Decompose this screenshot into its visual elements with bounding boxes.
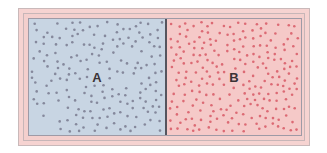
particle-b xyxy=(286,38,289,41)
particle-b xyxy=(185,71,188,74)
particle-a xyxy=(102,108,105,111)
particle-a xyxy=(122,71,125,74)
particle-b xyxy=(178,25,181,28)
particle-a xyxy=(78,130,81,133)
particle-a xyxy=(88,43,91,46)
particle-b xyxy=(251,29,254,32)
particle-a xyxy=(77,108,80,111)
compartment-a: A xyxy=(29,19,165,135)
particle-b xyxy=(183,83,186,86)
particle-b xyxy=(217,54,220,57)
particle-a xyxy=(59,77,62,80)
particle-b xyxy=(206,59,209,62)
particle-b xyxy=(179,46,182,49)
particle-b xyxy=(184,93,187,96)
particle-b xyxy=(202,67,205,70)
particle-a xyxy=(155,90,158,93)
particle-b xyxy=(190,81,193,84)
particle-b xyxy=(284,79,287,82)
particle-a xyxy=(45,84,48,87)
particle-b xyxy=(263,98,266,101)
particle-b xyxy=(201,47,204,50)
particle-a xyxy=(103,97,106,100)
particle-a xyxy=(96,101,99,104)
particle-b xyxy=(288,24,291,27)
particle-a xyxy=(144,123,147,126)
particle-b xyxy=(244,36,247,39)
particle-a xyxy=(124,94,127,97)
particle-b xyxy=(170,46,173,49)
particle-a xyxy=(113,112,116,115)
particle-b xyxy=(272,122,275,125)
particle-a xyxy=(46,65,49,68)
particle-a xyxy=(47,92,50,95)
particle-a xyxy=(144,100,147,103)
particle-b xyxy=(225,109,228,112)
particle-b xyxy=(275,99,278,102)
particle-b xyxy=(215,65,218,68)
particle-b xyxy=(271,76,274,79)
particle-b xyxy=(176,106,179,109)
particle-a xyxy=(124,125,127,128)
particle-b xyxy=(192,104,195,107)
particle-b xyxy=(226,50,229,53)
particle-a xyxy=(43,36,46,39)
particle-b xyxy=(257,66,260,69)
particle-a xyxy=(132,100,135,103)
particle-a xyxy=(33,98,36,101)
particle-b xyxy=(266,51,269,54)
particle-a xyxy=(35,90,38,93)
particle-b xyxy=(276,70,279,73)
particle-b xyxy=(252,93,255,96)
particle-b xyxy=(265,67,268,70)
particle-b xyxy=(204,53,207,56)
particle-b xyxy=(170,128,173,131)
particle-a xyxy=(85,86,88,89)
particle-b xyxy=(233,39,236,42)
particle-a xyxy=(93,84,96,87)
particle-b xyxy=(248,80,251,83)
particle-b xyxy=(223,25,226,28)
particle-a xyxy=(86,76,89,79)
particle-a xyxy=(156,29,159,32)
particle-a xyxy=(152,105,155,108)
particle-b xyxy=(211,62,214,65)
particle-a xyxy=(58,37,61,40)
particle-a xyxy=(119,38,122,41)
particle-b xyxy=(262,62,265,65)
particle-b xyxy=(243,105,246,108)
particle-b xyxy=(260,86,263,89)
particle-a xyxy=(126,62,129,65)
particle-b xyxy=(182,100,185,103)
particle-b xyxy=(215,128,218,131)
particle-a xyxy=(56,22,59,25)
particle-b xyxy=(295,65,298,68)
particle-a xyxy=(98,54,101,57)
particle-a xyxy=(91,53,94,56)
particle-b xyxy=(176,40,179,43)
particle-b xyxy=(206,70,209,73)
particle-b xyxy=(242,113,245,116)
particle-a xyxy=(139,91,142,94)
particle-a xyxy=(79,60,82,63)
particle-a xyxy=(126,115,129,118)
particle-b xyxy=(171,100,174,103)
particle-a xyxy=(119,101,122,104)
particle-b xyxy=(296,77,299,80)
particle-b xyxy=(254,85,257,88)
particle-b xyxy=(267,57,270,60)
particle-a xyxy=(153,45,156,48)
particle-a xyxy=(79,21,82,24)
particle-b xyxy=(218,78,221,81)
particle-b xyxy=(210,104,213,107)
particle-b xyxy=(232,33,235,36)
particle-b xyxy=(291,93,294,96)
particle-a xyxy=(71,35,74,38)
particle-b xyxy=(255,122,258,125)
particle-b xyxy=(176,113,179,116)
particle-a xyxy=(79,78,82,81)
compartment-b: B xyxy=(167,19,301,135)
particle-b xyxy=(216,118,219,121)
particle-b xyxy=(285,98,288,101)
particle-b xyxy=(265,22,268,25)
